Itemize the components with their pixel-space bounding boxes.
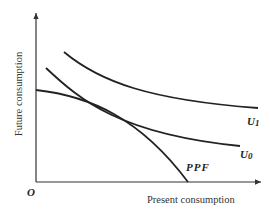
x-axis-title: Present consumption <box>147 194 236 205</box>
ppf-curve <box>36 90 188 182</box>
label-ppf: PPF <box>186 161 210 173</box>
label-u0: U0 <box>240 148 253 161</box>
label-u1: U1 <box>247 115 259 128</box>
indifference-curve-u1 <box>64 52 258 108</box>
y-axis-title: Future consumption <box>13 51 24 136</box>
origin-label: O <box>27 186 35 198</box>
intertemporal-choice-diagram: U1 U0 PPF O Present consumption Future c… <box>0 0 270 209</box>
